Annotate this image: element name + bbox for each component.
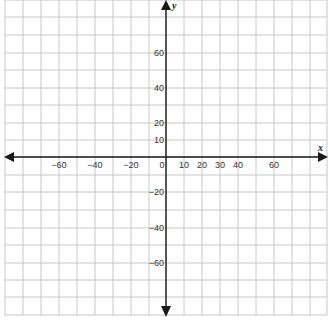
- y-tick-label: 60: [154, 48, 164, 58]
- coordinate-plane: x y −60−40−2001020304060 60402010−20−40−…: [0, 0, 328, 320]
- y-axis-up-arrow-icon: [161, 0, 171, 10]
- y-axis-label: y: [171, 0, 177, 11]
- y-tick-label: 20: [154, 118, 164, 128]
- y-tick-label: −20: [149, 187, 164, 197]
- y-tick-label: 40: [154, 83, 164, 93]
- x-tick-label: 20: [197, 160, 207, 170]
- x-tick-label: −60: [51, 160, 66, 170]
- x-tick-label: −40: [87, 160, 102, 170]
- x-tick-label: 0: [159, 160, 164, 170]
- x-tick-label: −20: [123, 160, 138, 170]
- axes: [4, 0, 328, 317]
- x-tick-labels: −60−40−2001020304060: [51, 160, 279, 170]
- y-tick-labels: 60402010−20−40−60: [149, 48, 164, 268]
- y-tick-label: −40: [149, 223, 164, 233]
- x-tick-label: 10: [179, 160, 189, 170]
- x-tick-label: 60: [269, 160, 279, 170]
- y-tick-label: −60: [149, 258, 164, 268]
- x-tick-label: 40: [233, 160, 243, 170]
- y-tick-label: 10: [154, 135, 164, 145]
- x-axis-label: x: [317, 142, 323, 153]
- x-tick-label: 30: [215, 160, 225, 170]
